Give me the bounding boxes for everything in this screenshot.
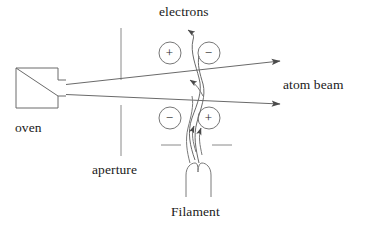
oven-box [16,68,66,108]
charge-sign-top-right: − [200,44,217,61]
charge-sign-bottom-right: + [200,109,217,126]
apparatus-diagram: + − − + electrons atom beam oven apertur… [0,0,366,226]
charge-sign-top-left: + [161,44,178,61]
atom-beam-ray-upper [66,61,280,85]
filament-hairpin [186,163,211,197]
electron-trajectory-short-b [199,128,202,155]
electron-trajectory-to-upper-beam [190,80,203,96]
label-aperture: aperture [92,162,137,177]
charge-sign-bottom-left: − [161,109,178,126]
label-electrons: electrons [159,4,209,19]
atom-beam-ray-lower [66,95,280,105]
diagram-canvas [0,0,366,226]
label-oven: oven [15,120,42,135]
label-atom-beam: atom beam [283,77,344,92]
label-filament: Filament [171,204,220,219]
